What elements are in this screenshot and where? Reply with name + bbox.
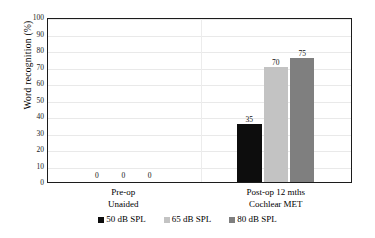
x-axis-category-label-line: Pre-op <box>108 187 139 199</box>
bar-value-label: 70 <box>272 59 280 67</box>
x-axis-category-label-line: Post-op 12 mths <box>246 187 305 199</box>
y-axis-tick-label: 40 <box>18 113 44 121</box>
y-axis-tick-label: 0 <box>18 179 44 187</box>
bar-value-label: 75 <box>298 50 306 58</box>
legend-label: 50 dB SPL <box>106 215 146 224</box>
legend-label: 80 dB SPL <box>237 215 277 224</box>
legend-item[interactable]: 65 dB SPL <box>164 215 212 224</box>
y-axis-tick-label: 30 <box>18 130 44 138</box>
y-axis-tick-label: 100 <box>18 14 44 22</box>
legend-swatch-icon <box>98 217 104 223</box>
x-axis-category-label: Post-op 12 mthsCochlear MET <box>246 187 305 210</box>
legend-swatch-icon <box>229 217 235 223</box>
bar-value-label: 0 <box>95 172 99 180</box>
gridline <box>48 36 351 37</box>
category-divider <box>201 19 202 182</box>
plot-area: 000357075 <box>47 18 352 183</box>
bar <box>237 124 261 182</box>
chart-legend: 50 dB SPL65 dB SPL80 dB SPL <box>0 215 375 224</box>
x-axis-category-label-line: Unaided <box>108 199 139 211</box>
y-axis-tick-label: 60 <box>18 80 44 88</box>
bar <box>290 58 314 182</box>
y-axis-tick-label: 50 <box>18 97 44 105</box>
legend-item[interactable]: 80 dB SPL <box>229 215 277 224</box>
bar-chart-figure: Word recognition (%) 1009080706050403020… <box>0 0 375 238</box>
y-axis-tick-label: 10 <box>18 163 44 171</box>
x-axis-category-label-line: Cochlear MET <box>246 199 305 211</box>
legend-item[interactable]: 50 dB SPL <box>98 215 146 224</box>
bar-value-label: 0 <box>121 172 125 180</box>
x-axis-category-label: Pre-opUnaided <box>108 187 139 210</box>
bar-value-label: 35 <box>246 116 254 124</box>
legend-swatch-icon <box>164 217 170 223</box>
bar-value-label: 0 <box>148 172 152 180</box>
gridline <box>48 19 351 20</box>
y-axis-tick-label: 90 <box>18 31 44 39</box>
y-axis-tick-label: 80 <box>18 47 44 55</box>
legend-label: 65 dB SPL <box>172 215 212 224</box>
bar <box>264 67 288 183</box>
y-axis-tick-label: 20 <box>18 146 44 154</box>
y-axis-tick-label: 70 <box>18 64 44 72</box>
y-axis-tick-labels: 1009080706050403020100 <box>18 18 44 183</box>
